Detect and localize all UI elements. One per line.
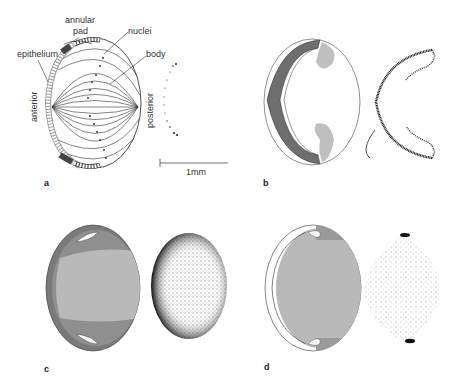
label-pad: pad: [73, 27, 88, 36]
label-body: body: [146, 50, 166, 59]
panel-letter-c: c: [44, 364, 49, 374]
scale-bar: [160, 159, 228, 167]
panel-letter-a: a: [44, 178, 49, 188]
label-epithelium: epithelium: [17, 50, 58, 59]
stippled-lens: [364, 234, 440, 342]
panel-letter-d: d: [264, 362, 270, 372]
posterior-stipple-arc: [163, 63, 178, 136]
panel-a-lens-diagram: [38, 32, 228, 168]
scale-bar-label: 1mm: [186, 168, 206, 177]
label-anterior: anterior: [30, 91, 39, 122]
label-nuclei: nuclei: [128, 27, 152, 36]
panel-letter-b: b: [263, 178, 269, 188]
panel-b-lens-diagram: [264, 39, 434, 165]
label-posterior: posterior: [146, 93, 155, 128]
panel-c-lens-diagram: [46, 225, 227, 351]
label-annular: annular: [65, 16, 95, 25]
panel-d-lens-diagram: [265, 224, 440, 354]
figure-canvas: [0, 0, 456, 386]
posterior-stipple-arc: [376, 50, 432, 158]
